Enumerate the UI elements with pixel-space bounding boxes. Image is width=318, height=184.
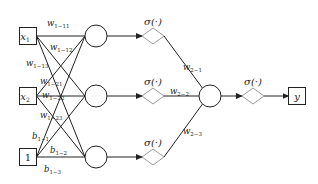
- neural-network-diagram: x1x21σ(·)σ(·)σ(·)σ(·)yw1−11w1−12w1−13w1−…: [0, 0, 318, 184]
- weight-label-layer1-9: b1−3: [44, 164, 62, 175]
- hidden-neuron-h2: [85, 85, 107, 107]
- sigmoid-activation-2-label: σ(·): [144, 76, 162, 87]
- weight-label-layer1-2: w1−12: [50, 42, 72, 53]
- sigmoid-activation-output: [242, 88, 264, 104]
- hidden-neuron-h3: [85, 146, 107, 168]
- weight-label-layer2-2: w2−2: [170, 86, 189, 97]
- sigmoid-activation-2: [142, 88, 164, 104]
- weight-label-layer2-1: w2−1: [183, 62, 202, 73]
- output-label-y: y: [293, 91, 300, 102]
- sigmoid-activation-1-label: σ(·): [144, 16, 162, 27]
- weight-label-layer2-3: w2−3: [183, 126, 202, 137]
- input-label-bias: 1: [25, 152, 31, 163]
- sigmoid-activation-1: [142, 28, 164, 44]
- hidden-neuron-h1: [85, 25, 107, 47]
- weight-label-layer1-6: w1−23: [40, 110, 63, 121]
- output-neuron: [199, 85, 221, 107]
- weight-label-layer1-5: w1−22: [42, 90, 64, 101]
- sigmoid-activation-3-label: σ(·): [144, 137, 162, 148]
- sigmoid-activation-3: [142, 149, 164, 165]
- weight-label-layer1-8: b1−2: [50, 145, 67, 156]
- sigmoid-activation-output-label: σ(·): [244, 76, 262, 87]
- weight-label-layer1-1: w1−11: [47, 18, 69, 29]
